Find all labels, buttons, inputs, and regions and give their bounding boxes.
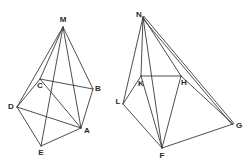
vertex-label-c: C (37, 82, 43, 90)
edge-k-f (141, 76, 162, 148)
diagram-canvas: M C B D A E N K H L G F (0, 0, 249, 165)
vertex-label-l: L (116, 98, 121, 106)
edge-f-g (162, 124, 233, 148)
edge-e-a (41, 128, 81, 146)
vertex-label-a: A (84, 127, 90, 135)
edge-n-g (144, 16, 234, 123)
edge-d-a (17, 107, 81, 128)
vertex-label-d: D (8, 103, 14, 111)
vertex-label-e: E (38, 149, 43, 157)
edge-m-b (63, 27, 93, 89)
edge-m-d (17, 27, 63, 107)
left-polyhedron-edges (17, 27, 93, 146)
vertex-label-k: K (138, 80, 144, 88)
edge-c-b (40, 79, 93, 89)
edge-b-a (81, 89, 93, 128)
edge-h-f (162, 76, 181, 148)
vertex-label-g: G (236, 122, 242, 130)
edge-m-e (41, 27, 63, 146)
edge-m-a (63, 27, 81, 128)
vertex-label-n: N (136, 11, 142, 19)
vertex-label-b: B (95, 85, 101, 93)
edge-h-g (181, 76, 233, 124)
vertex-label-f: F (160, 152, 165, 160)
vertex-label-h: H (181, 79, 187, 87)
edge-d-e (17, 107, 41, 146)
edge-m-c (40, 27, 63, 79)
edge-n-l (123, 17, 143, 104)
vertex-label-m: M (60, 16, 67, 24)
edge-n-f (143, 17, 162, 148)
edge-n-g (142, 18, 232, 125)
edge-c-a (40, 79, 81, 128)
